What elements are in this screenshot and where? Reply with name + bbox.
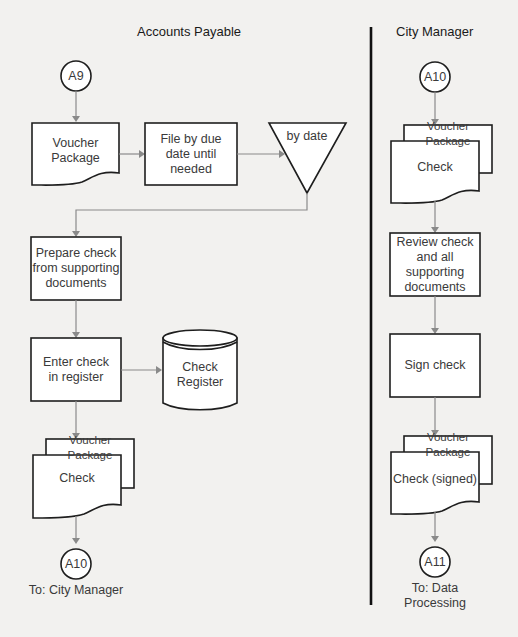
flowchart-canvas: [0, 0, 518, 637]
connector-a9-label: A9: [61, 68, 91, 84]
connector-a11-label: A11: [417, 554, 453, 570]
sign-check-label: Sign check: [390, 334, 480, 397]
lane-title-city-manager: City Manager: [396, 24, 473, 39]
lane-title-accounts-payable: Accounts Payable: [137, 24, 241, 39]
cm-out-voucher-back-label: Voucher Package: [404, 437, 492, 452]
connector-a10-in-label: A10: [417, 69, 453, 85]
connector-a10-out-label: A10: [58, 556, 94, 572]
to-data-processing-label: To: Data Processing: [395, 580, 475, 612]
signed-check-label: Check (signed): [391, 470, 479, 488]
to-city-manager-label: To: City Manager: [20, 582, 132, 598]
cm-check-front-label: Check: [391, 158, 479, 176]
enter-check-label: Enter check in register: [31, 338, 121, 401]
ap-check-front-label: Check: [33, 469, 121, 487]
file-process-label: File by due date until needed: [145, 123, 237, 185]
storage-label: by date: [272, 128, 342, 144]
ap-voucher-back-label: Voucher Package: [46, 440, 134, 455]
check-register-label: Check Register: [163, 350, 237, 400]
cm-voucher-back-label: Voucher Package: [404, 126, 492, 141]
voucher-package-label: Voucher Package: [32, 134, 119, 168]
review-check-label: Review check and all supporting document…: [390, 233, 480, 296]
prepare-check-label: Prepare check from supporting documents: [31, 237, 121, 300]
